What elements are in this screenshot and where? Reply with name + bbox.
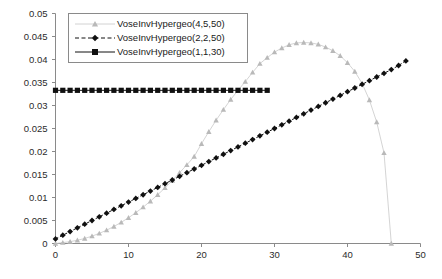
y-tick-label: 0.03 xyxy=(0,101,48,111)
y-tick-label: 0.02 xyxy=(0,147,48,157)
x-tick-label: 40 xyxy=(333,250,363,260)
data-series-group xyxy=(53,40,409,246)
x-tick-label: 10 xyxy=(114,250,144,260)
chart-container: 00.0050.010.0150.020.0250.030.0350.040.0… xyxy=(0,0,442,279)
x-tick-label: 30 xyxy=(260,250,290,260)
legend-label: VoseInvHypergeo(1,1,30) xyxy=(117,46,225,58)
series-1 xyxy=(53,58,409,242)
y-tick-label: 0.035 xyxy=(0,78,48,88)
y-tick-label: 0.05 xyxy=(0,9,48,19)
legend-item-0: VoseInvHypergeo(4,5,50) xyxy=(69,17,247,31)
legend: VoseInvHypergeo(4,5,50)VoseInvHypergeo(2… xyxy=(68,13,248,63)
y-tick-label: 0 xyxy=(0,239,48,249)
legend-label: VoseInvHypergeo(4,5,50) xyxy=(117,18,225,30)
series-0 xyxy=(53,40,394,246)
y-tick-label: 0.04 xyxy=(0,55,48,65)
series-2 xyxy=(53,88,270,93)
legend-marker-square-icon xyxy=(73,45,117,59)
y-tick-label: 0.045 xyxy=(0,32,48,42)
y-tick-label: 0.01 xyxy=(0,193,48,203)
y-tick-label: 0.005 xyxy=(0,216,48,226)
x-tick-label: 20 xyxy=(187,250,217,260)
legend-marker-diamond-icon xyxy=(73,31,117,45)
legend-item-1: VoseInvHypergeo(2,2,50) xyxy=(69,31,247,45)
legend-item-2: VoseInvHypergeo(1,1,30) xyxy=(69,45,247,59)
x-tick-label: 0 xyxy=(41,250,71,260)
x-tick-label: 50 xyxy=(406,250,436,260)
legend-marker-triangle-icon xyxy=(73,17,117,31)
y-tick-label: 0.015 xyxy=(0,170,48,180)
y-tick-label: 0.025 xyxy=(0,124,48,134)
legend-label: VoseInvHypergeo(2,2,50) xyxy=(117,32,225,44)
